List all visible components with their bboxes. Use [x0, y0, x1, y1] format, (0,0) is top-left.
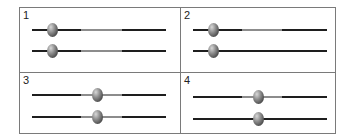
- slider-grid: 1 2 3 4: [19, 7, 336, 134]
- slider-track-dark: [282, 96, 327, 98]
- slider-knob[interactable]: [253, 90, 264, 104]
- slider-track-dark: [122, 50, 166, 52]
- slider-knob[interactable]: [208, 44, 219, 58]
- slider-knob[interactable]: [253, 112, 264, 126]
- slider-track-dark: [122, 116, 166, 118]
- slider[interactable]: [32, 88, 166, 102]
- slider-track-light: [242, 29, 282, 31]
- slider-knob[interactable]: [47, 44, 58, 58]
- panel-4: 4: [181, 73, 341, 137]
- slider[interactable]: [193, 23, 327, 37]
- slider[interactable]: [193, 44, 327, 58]
- slider-knob[interactable]: [92, 88, 103, 102]
- panel-label: 4: [184, 74, 190, 86]
- slider-track-light: [81, 29, 122, 31]
- slider-track-dark: [32, 94, 81, 96]
- slider[interactable]: [32, 44, 166, 58]
- panel-3: 3: [20, 73, 180, 137]
- slider-track-dark: [122, 29, 166, 31]
- panel-1: 1: [20, 8, 180, 72]
- slider-track-light: [81, 50, 122, 52]
- panel-2: 2: [181, 8, 341, 72]
- slider[interactable]: [32, 110, 166, 124]
- slider-track-dark: [32, 116, 81, 118]
- panel-label: 2: [184, 9, 190, 21]
- panel-label: 1: [23, 9, 29, 21]
- slider[interactable]: [193, 90, 327, 104]
- slider-track-dark: [193, 96, 242, 98]
- slider-track-dark: [282, 29, 327, 31]
- slider-knob[interactable]: [92, 110, 103, 124]
- slider[interactable]: [32, 23, 166, 37]
- slider-knob[interactable]: [47, 23, 58, 37]
- panel-label: 3: [23, 74, 29, 86]
- slider-track-dark: [122, 94, 166, 96]
- slider[interactable]: [193, 112, 327, 126]
- slider-knob[interactable]: [208, 23, 219, 37]
